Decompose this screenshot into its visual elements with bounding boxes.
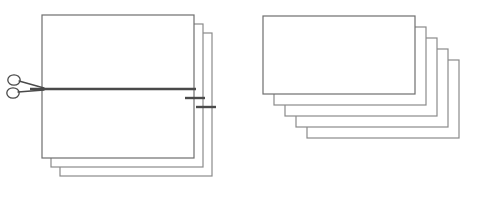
scissors-upper-handle-icon <box>8 75 20 85</box>
scissors-lower-handle-icon <box>7 88 19 98</box>
diagram-svg <box>0 0 477 200</box>
right-sheet-stack <box>263 16 459 138</box>
scissors-upper-blade-icon <box>19 81 44 88</box>
scissors-lower-blade-icon <box>18 90 44 92</box>
left-sheet-stack <box>42 15 212 176</box>
cut-sheet-1 <box>263 16 415 94</box>
front-sheet <box>42 15 194 158</box>
diagram-canvas <box>0 0 477 200</box>
scissors-icon <box>7 75 44 98</box>
